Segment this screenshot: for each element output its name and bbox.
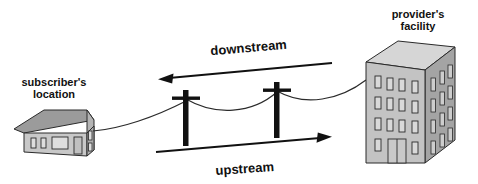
subscriber-label: subscriber's location (22, 76, 87, 100)
upstream-arrow (156, 133, 332, 152)
house-side-window (89, 143, 93, 151)
building-side-window (440, 92, 445, 105)
building-window (387, 119, 393, 131)
downstream-arrow-head (158, 73, 174, 83)
building-side-window (440, 134, 445, 147)
house-roof (14, 110, 94, 133)
building-side-window (431, 78, 436, 91)
building-side-window (431, 99, 436, 112)
building-side-window (448, 86, 453, 99)
network-diagram: subscriber's location provider's facilit… (0, 0, 478, 184)
upstream-label: upstream (215, 159, 274, 178)
house-picture-window (52, 137, 68, 149)
provider-label-line1: provider's (392, 8, 445, 20)
house-window (41, 138, 46, 148)
provider-label-line2: facility (401, 20, 437, 32)
building-window (375, 76, 381, 88)
house-window (31, 138, 36, 148)
building-window (387, 78, 393, 90)
downstream-arrow (158, 63, 332, 83)
building-window (375, 139, 381, 151)
building-side-window (431, 141, 436, 154)
building-window (399, 79, 405, 91)
building-side-window (448, 128, 453, 141)
subscriber-label-line1: subscriber's (22, 76, 87, 88)
building-side-window (440, 71, 445, 84)
span-wire-pole-to-pole (186, 92, 277, 110)
building-window (399, 120, 405, 132)
utility-pole-left-crossarm (172, 97, 200, 100)
building-window (412, 101, 418, 113)
downstream-arrow-shaft (169, 63, 332, 78)
upstream-label-group: upstream (215, 159, 274, 178)
upstream-arrow-head (317, 133, 333, 143)
downstream-label: downstream (210, 37, 288, 59)
building-side-window (440, 113, 445, 126)
house-door (74, 137, 82, 154)
building-window (375, 118, 381, 130)
building-window (412, 121, 418, 133)
building-window (399, 99, 405, 111)
upstream-arrow-shaft (156, 138, 320, 152)
subscriber-label-line2: location (33, 88, 75, 100)
utility-pole-right-crossarm (263, 89, 291, 92)
utility-pole-left (172, 90, 200, 146)
downstream-label-group: downstream (210, 37, 288, 59)
building-window (412, 81, 418, 93)
provider-building (366, 41, 455, 163)
utility-pole-right (263, 82, 291, 138)
building-window (412, 142, 418, 154)
building-side-window (431, 120, 436, 133)
building-side-window (448, 65, 453, 78)
building-window (375, 97, 381, 109)
building-window (387, 98, 393, 110)
building-side-window (448, 107, 453, 120)
subscriber-house (14, 110, 94, 156)
drop-wire-house-to-pole (93, 101, 186, 131)
provider-label: provider's facility (392, 8, 445, 32)
house-side-window (89, 131, 93, 140)
